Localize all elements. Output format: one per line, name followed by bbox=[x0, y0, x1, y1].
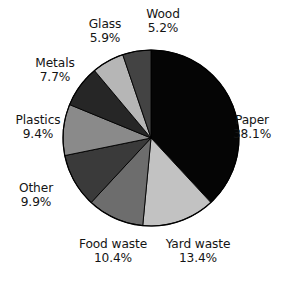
pie-chart: Paper38.1%Yard waste13.4%Food waste10.4%… bbox=[0, 0, 299, 281]
pie-label-name: Paper bbox=[233, 114, 271, 128]
pie-label-name: Plastics bbox=[16, 114, 61, 128]
pie-label-food-waste: Food waste10.4% bbox=[79, 238, 147, 265]
pie-label-percent: 9.4% bbox=[16, 128, 61, 142]
pie-label-name: Metals bbox=[35, 57, 74, 71]
pie-label-percent: 13.4% bbox=[166, 252, 231, 266]
pie-label-percent: 7.7% bbox=[35, 71, 74, 85]
pie-label-paper: Paper38.1% bbox=[233, 114, 271, 141]
pie-label-name: Other bbox=[19, 182, 53, 196]
pie-label-percent: 10.4% bbox=[79, 252, 147, 266]
pie-label-name: Yard waste bbox=[166, 238, 231, 252]
pie-label-percent: 5.2% bbox=[146, 22, 180, 36]
pie-label-yard-waste: Yard waste13.4% bbox=[166, 238, 231, 265]
pie-label-glass: Glass5.9% bbox=[89, 18, 122, 45]
pie-label-wood: Wood5.2% bbox=[146, 8, 180, 35]
pie-label-percent: 5.9% bbox=[89, 32, 122, 46]
pie-label-percent: 38.1% bbox=[233, 128, 271, 142]
pie-label-percent: 9.9% bbox=[19, 196, 53, 210]
pie-label-other: Other9.9% bbox=[19, 182, 53, 209]
pie-label-name: Food waste bbox=[79, 238, 147, 252]
pie-label-name: Glass bbox=[89, 18, 122, 32]
pie-label-name: Wood bbox=[146, 8, 180, 22]
pie-label-plastics: Plastics9.4% bbox=[16, 114, 61, 141]
pie-label-metals: Metals7.7% bbox=[35, 57, 74, 84]
